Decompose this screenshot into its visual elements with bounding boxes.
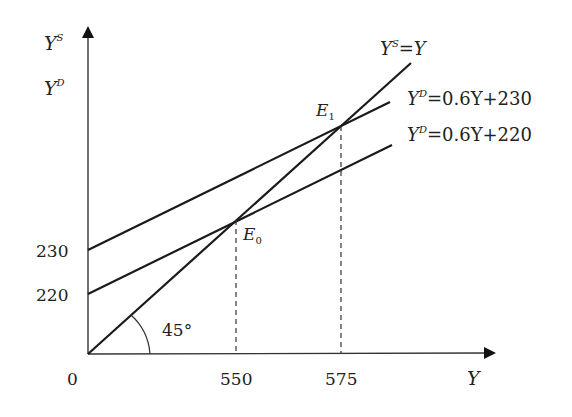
e0-label: E0 xyxy=(243,226,262,243)
x-axis xyxy=(88,353,486,354)
y-axis-arrow-icon xyxy=(82,26,94,38)
keynesian-cross-diagram: YS YD 230 220 0 550 575 Y YS=Y YD=0.6Y+2… xyxy=(0,0,572,417)
x-tick-575: 575 xyxy=(325,371,357,388)
demand-230-label: YD=0.6Y+230 xyxy=(407,90,532,108)
angle-label: 45° xyxy=(162,322,192,339)
y-axis-label-demand: YD xyxy=(44,79,65,98)
y-tick-230: 230 xyxy=(36,243,68,260)
supply-line-label: YS=Y xyxy=(380,40,426,58)
origin-label: 0 xyxy=(67,371,78,388)
x-axis-label: Y xyxy=(467,369,480,388)
angle-arc xyxy=(131,315,150,354)
demand-line-220 xyxy=(88,145,392,294)
y-axis-label-supply: YS xyxy=(44,34,63,53)
supply-line xyxy=(88,63,411,354)
demand-220-label: YD=0.6Y+220 xyxy=(407,126,532,144)
diagram-graphics xyxy=(0,0,572,417)
x-axis-arrow-icon xyxy=(484,347,496,359)
demand-line-230 xyxy=(88,102,390,250)
y-tick-220: 220 xyxy=(36,287,68,304)
x-tick-550: 550 xyxy=(220,371,252,388)
e1-label: E1 xyxy=(316,102,335,119)
